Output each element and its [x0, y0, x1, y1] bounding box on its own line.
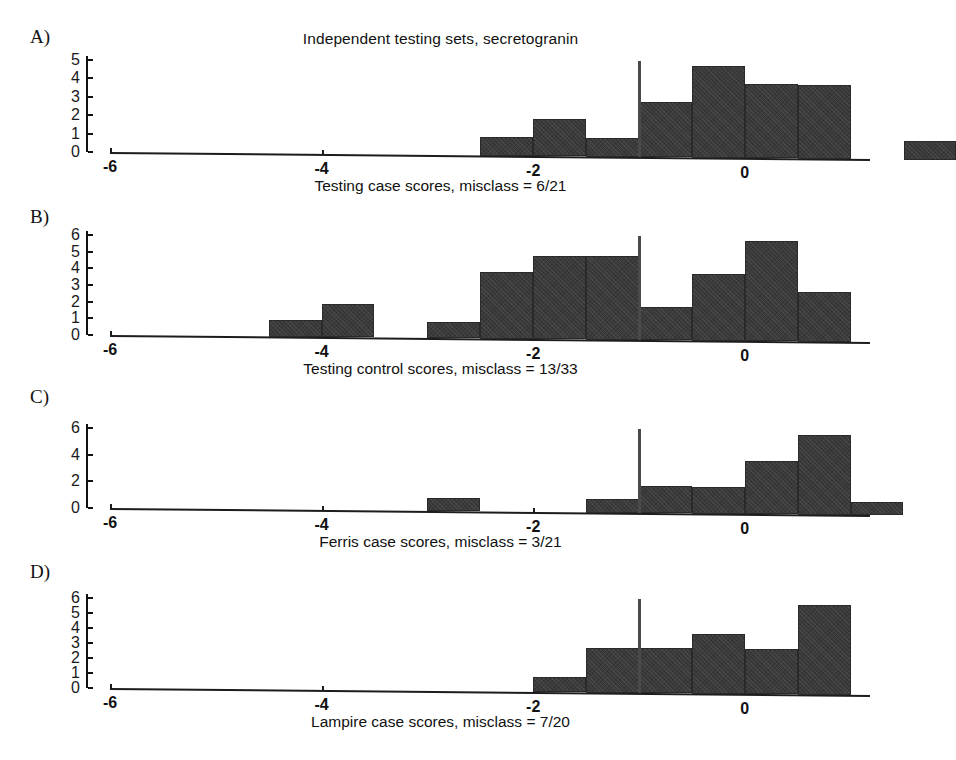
panel-letter: C): [30, 386, 49, 408]
y-tick-mark: [88, 301, 93, 303]
histogram-bar: [745, 84, 798, 158]
x-tick-text: -6: [103, 514, 117, 531]
panel-caption: Lampire case scores, misclass = 7/20: [0, 713, 881, 731]
y-tick-label: 2: [52, 293, 80, 311]
histogram-bar: [269, 320, 322, 337]
y-tick-mark: [88, 454, 93, 456]
y-tick-label: 5: [52, 243, 80, 261]
y-tick-text: 1: [71, 309, 80, 326]
x-tick-label: -4: [314, 160, 328, 178]
histogram-bar: [745, 461, 798, 514]
y-tick-label: 0: [52, 143, 80, 161]
x-tick-mark: [322, 506, 324, 511]
x-tick-mark: [110, 504, 112, 509]
histogram-bar: [533, 119, 586, 156]
y-tick-mark: [88, 133, 93, 135]
y-tick-mark: [88, 627, 93, 629]
histogram-bar: [480, 137, 533, 155]
y-axis-line: [86, 56, 88, 152]
y-axis-line: [86, 231, 88, 335]
panel-caption: Testing case scores, misclass = 6/21: [0, 177, 881, 195]
x-tick-label: -6: [103, 341, 117, 359]
x-tick-text: -4: [314, 160, 328, 177]
x-tick-mark: [110, 331, 112, 336]
y-tick-label: 2: [52, 106, 80, 124]
y-tick-text: 6: [71, 419, 80, 436]
histogram-bar: [692, 634, 745, 694]
y-tick-text: 4: [71, 69, 80, 86]
y-tick-mark: [88, 317, 93, 319]
y-tick-mark: [88, 597, 93, 599]
y-tick-mark: [88, 507, 93, 509]
panel-caption: Testing control scores, misclass = 13/33: [0, 360, 881, 378]
x-tick-mark: [533, 508, 535, 513]
y-tick-label: 4: [52, 259, 80, 277]
threshold-line: [638, 429, 641, 513]
panel-letter: A): [30, 26, 50, 48]
x-tick-text: -6: [103, 158, 117, 175]
x-tick-text: -4: [314, 516, 328, 533]
y-tick-mark: [88, 334, 93, 336]
y-tick-label: 3: [52, 276, 80, 294]
y-tick-text: 0: [71, 499, 80, 516]
y-tick-label: 3: [52, 88, 80, 106]
y-tick-label: 6: [52, 419, 80, 437]
panel-caption: Ferris case scores, misclass = 3/21: [0, 533, 881, 551]
y-axis-line: [86, 424, 88, 508]
histogram-bar: [427, 498, 480, 511]
x-tick-label: -6: [103, 158, 117, 176]
histogram-bar: [639, 102, 692, 157]
y-tick-mark: [88, 267, 93, 269]
panel-letter: D): [30, 561, 50, 583]
y-tick-text: 0: [71, 143, 80, 160]
histogram-bar: [745, 649, 798, 694]
histogram-bar: [692, 66, 745, 158]
histogram-bar: [480, 272, 533, 339]
y-tick-mark: [88, 657, 93, 659]
y-tick-mark: [88, 284, 93, 286]
x-tick-text: -4: [314, 343, 328, 360]
y-tick-text: 6: [71, 226, 80, 243]
y-tick-label: 6: [52, 589, 80, 607]
x-tick-label: -6: [103, 514, 117, 532]
x-tick-mark: [322, 686, 324, 691]
histogram-bar: [533, 677, 586, 692]
histogram-bar: [798, 605, 851, 695]
threshold-line: [638, 61, 641, 157]
histogram-bar: [586, 138, 639, 156]
y-tick-label: 0: [52, 326, 80, 344]
histogram-bar: [798, 292, 851, 342]
y-tick-text: 1: [71, 125, 80, 142]
y-tick-mark: [88, 96, 93, 98]
y-tick-mark: [88, 114, 93, 116]
y-tick-label: 2: [52, 472, 80, 490]
x-tick-label: -6: [103, 694, 117, 712]
x-tick-text: -6: [103, 694, 117, 711]
y-tick-mark: [88, 612, 93, 614]
histogram-bar: [639, 307, 692, 340]
y-tick-mark: [88, 687, 93, 689]
x-tick-mark: [322, 150, 324, 155]
y-tick-mark: [88, 234, 93, 236]
y-tick-text: 2: [71, 106, 80, 123]
y-tick-mark: [88, 251, 93, 253]
histogram-bar: [798, 85, 851, 159]
y-tick-label: 1: [52, 125, 80, 143]
threshold-line: [638, 236, 641, 340]
histogram-bar: [322, 304, 375, 337]
y-tick-text: 3: [71, 88, 80, 105]
histogram-bar: [639, 486, 692, 513]
histogram-bar: [692, 274, 745, 341]
histogram-bar: [639, 648, 692, 693]
x-tick-label: -4: [314, 696, 328, 714]
histogram-bar: [586, 256, 639, 339]
histogram-bar: [427, 322, 480, 339]
y-tick-mark: [88, 672, 93, 674]
y-tick-label: 0: [52, 499, 80, 517]
histogram-bar: [745, 241, 798, 341]
y-tick-text: 5: [71, 51, 80, 68]
histogram-bar: [798, 435, 851, 515]
x-tick-label: -4: [314, 516, 328, 534]
y-tick-text: 2: [71, 472, 80, 489]
histogram-bar: [851, 502, 904, 515]
